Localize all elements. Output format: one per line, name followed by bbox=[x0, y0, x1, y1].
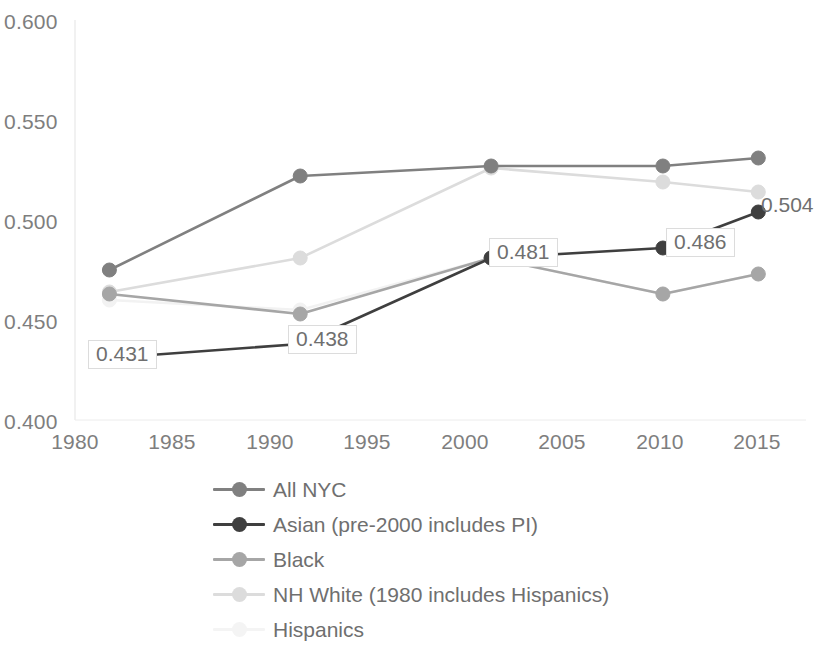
legend-marker-icon bbox=[213, 586, 265, 604]
x-axis-tick-label: 1985 bbox=[140, 430, 204, 454]
legend-label: Asian (pre-2000 includes PI) bbox=[273, 513, 538, 537]
data-label-0431: 0.431 bbox=[88, 340, 157, 369]
x-axis-tick-label: 2005 bbox=[530, 430, 594, 454]
legend-label: Black bbox=[273, 548, 324, 572]
legend-item-asian[interactable]: Asian (pre-2000 includes PI) bbox=[213, 507, 633, 542]
legend-item-hispanics[interactable]: Hispanics bbox=[213, 612, 633, 647]
legend-marker-icon bbox=[213, 621, 265, 639]
legend-marker-icon bbox=[213, 516, 265, 534]
chart-legend: All NYC Asian (pre-2000 includes PI) Bla… bbox=[213, 472, 633, 647]
y-axis-tick-label: 0.500 bbox=[4, 210, 58, 234]
y-axis-tick-label: 0.600 bbox=[4, 10, 58, 34]
legend-marker-icon bbox=[213, 481, 265, 499]
legend-label: NH White (1980 includes Hispanics) bbox=[273, 583, 609, 607]
legend-label: Hispanics bbox=[273, 618, 364, 642]
legend-item-all-nyc[interactable]: All NYC bbox=[213, 472, 633, 507]
legend-item-nh-white[interactable]: NH White (1980 includes Hispanics) bbox=[213, 577, 633, 612]
data-label-0481: 0.481 bbox=[489, 238, 558, 267]
y-axis-tick-label: 0.450 bbox=[4, 310, 58, 334]
data-label-0438: 0.438 bbox=[288, 325, 357, 354]
legend-label: All NYC bbox=[273, 478, 347, 502]
x-axis-tick-label: 1990 bbox=[238, 430, 302, 454]
x-axis-tick-label: 2000 bbox=[433, 430, 497, 454]
x-axis-tick-label: 1995 bbox=[335, 430, 399, 454]
legend-item-black[interactable]: Black bbox=[213, 542, 633, 577]
x-axis-tick-label: 1980 bbox=[43, 430, 107, 454]
x-axis-tick-label: 2010 bbox=[628, 430, 692, 454]
line-chart: 0.600 0.550 0.500 0.450 0.400 1980 1985 … bbox=[0, 0, 819, 653]
legend-marker-icon bbox=[213, 551, 265, 569]
y-axis-tick-label: 0.550 bbox=[4, 110, 58, 134]
data-label-0504: 0.504 bbox=[757, 192, 818, 218]
x-axis-tick-label: 2015 bbox=[725, 430, 789, 454]
data-label-0486: 0.486 bbox=[666, 228, 735, 257]
